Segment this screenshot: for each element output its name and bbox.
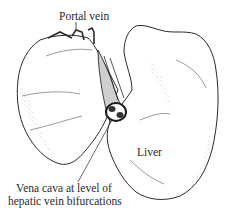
portal-vein-label: Portal vein — [59, 10, 109, 23]
vena-cava-label-line2: hepatic vein bifurcations — [8, 195, 120, 208]
left-lobe — [17, 35, 118, 164]
vena-cava-label: Vena cava at level of hepatic vein bifur… — [8, 182, 120, 208]
vena-cava-label-line1: Vena cava at level of — [8, 182, 120, 195]
vena-cava-section — [106, 103, 126, 121]
liver-illustration: Portal vein Liver Vena cava at level of … — [0, 0, 234, 220]
liver-label: Liver — [137, 146, 162, 159]
